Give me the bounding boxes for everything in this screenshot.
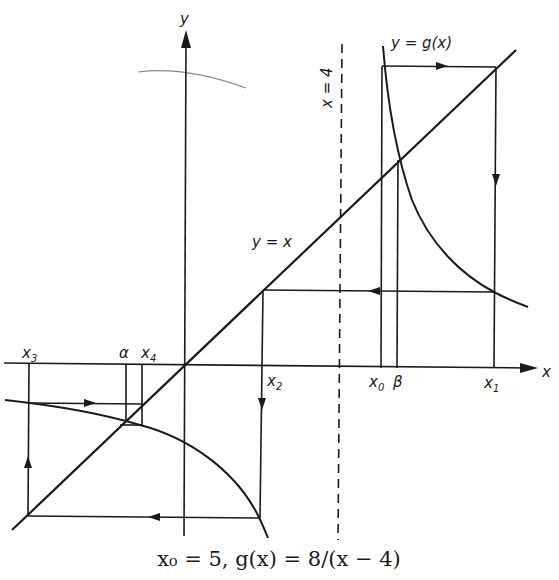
cobweb-arrow-down-icon <box>492 174 500 186</box>
label-x2: x2 <box>266 372 282 392</box>
g-curve-label: y = g(x) <box>390 34 452 52</box>
g-right-branch <box>383 46 528 307</box>
label-beta: β <box>392 373 403 391</box>
label-x0: x0 <box>368 373 384 393</box>
y-axis <box>184 40 186 536</box>
label-x1: x1 <box>483 374 499 394</box>
asymptote-label: x = 4 <box>318 67 336 109</box>
cobweb-diagram: y x x = 4 y = x y = g(x) x3 α x4 x2 x0 β… <box>0 0 559 580</box>
beta-vertical <box>397 160 398 368</box>
identity-label: y = x <box>251 233 292 251</box>
cobweb-arrow-down-2-icon <box>258 398 266 410</box>
y-axis-arrow-icon <box>181 30 191 48</box>
x1-vertical <box>494 67 496 368</box>
x0-vertical <box>381 66 382 368</box>
cobweb-step-3-horizontal <box>28 516 260 518</box>
cobweb-arrow-left-2-icon <box>148 513 160 521</box>
x-axis-label: x <box>541 363 551 381</box>
asymptote-line <box>338 44 342 540</box>
faint-arc <box>138 71 246 88</box>
cobweb-arrow-right-2-icon <box>84 399 96 407</box>
cobweb-arrow-right-icon <box>436 62 448 70</box>
label-x3: x3 <box>21 344 37 364</box>
caption: x₀ = 5, g(x) = 8/(x − 4) <box>157 547 401 571</box>
label-alpha: α <box>119 344 129 362</box>
x3-vertical <box>28 364 29 516</box>
label-x4: x4 <box>140 344 156 364</box>
x-axis <box>4 363 530 368</box>
cobweb-arrow-left-icon <box>368 287 380 295</box>
x-axis-arrow-icon <box>520 363 538 373</box>
y-axis-label: y <box>179 10 190 28</box>
cobweb-arrow-up-icon <box>24 456 32 468</box>
